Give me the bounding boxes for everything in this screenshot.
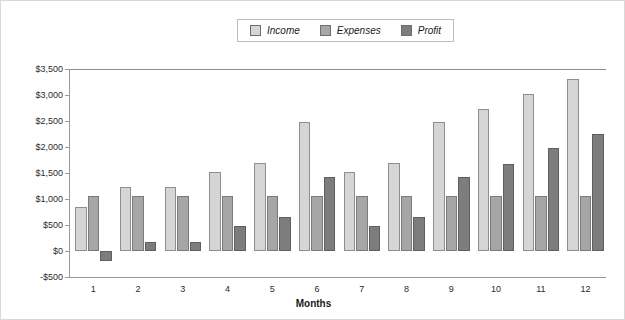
x-axis-tick-label: 5 [270,284,275,294]
bar-profit-month-6 [324,177,336,251]
bar-profit-month-7 [369,226,381,251]
bar-income-month-10 [478,109,490,251]
legend-swatch-expenses [320,25,331,36]
bar-profit-month-3 [190,242,202,251]
bar-expenses-month-8 [401,196,413,251]
bar-expenses-month-1 [88,196,100,251]
zero-baseline [69,69,606,70]
x-axis-tick-label: 10 [491,284,501,294]
x-axis-tick-label: 1 [91,284,96,294]
x-axis-tick-label: 7 [359,284,364,294]
bar-income-month-5 [254,163,266,251]
x-axis-tick-label: 8 [404,284,409,294]
bar-expenses-month-9 [446,196,458,251]
bar-expenses-month-5 [267,196,279,251]
y-axis-labels: $3,500$3,000$2,500$2,000$1,500$1,000$500… [1,69,63,277]
y-axis-tick [65,95,69,96]
x-axis-tick-label: 6 [315,284,320,294]
bar-profit-month-10 [503,164,515,251]
x-axis-tick-label: 12 [581,284,591,294]
x-axis-tick-label: 4 [225,284,230,294]
bar-expenses-month-10 [490,196,502,251]
bar-income-month-1 [75,207,87,251]
bar-income-month-2 [120,187,132,251]
x-axis-tick-label: 11 [536,284,545,294]
x-axis-tick-label: 2 [136,284,141,294]
bar-income-month-12 [567,79,579,251]
y-axis-tick [65,225,69,226]
y-axis-tick-label: $0 [53,246,63,256]
y-axis-tick-label: $2,500 [35,116,63,126]
y-axis-tick [65,147,69,148]
plot-area [69,69,606,277]
bar-profit-month-11 [548,148,560,251]
bar-expenses-month-7 [356,196,368,251]
y-axis-tick-label: $1,500 [35,168,63,178]
y-axis-tick [65,173,69,174]
y-axis-tick [65,199,69,200]
legend-label-income: Income [267,25,300,36]
bar-income-month-4 [209,172,221,251]
bar-expenses-month-11 [535,196,547,251]
bar-expenses-month-6 [311,196,323,251]
bar-income-month-6 [299,122,311,251]
y-axis-tick [65,121,69,122]
bar-expenses-month-3 [177,196,189,251]
chart-legend: Income Expenses Profit [237,19,454,42]
y-axis-tick-label: $500 [43,220,63,230]
y-axis-tick [65,251,69,252]
bar-profit-month-2 [145,242,157,251]
bar-profit-month-9 [458,177,470,251]
bar-expenses-month-12 [580,196,592,251]
y-axis-tick-label: $3,500 [35,64,63,74]
x-axis-line [69,277,606,278]
y-axis-tick-label: $2,000 [35,142,63,152]
bar-expenses-month-2 [132,196,144,251]
bar-expenses-month-4 [222,196,234,251]
y-axis-line [69,69,70,277]
y-axis-tick-label: -$500 [40,272,63,282]
bar-income-month-9 [433,122,445,251]
bar-income-month-8 [388,163,400,251]
legend-swatch-profit [401,25,412,36]
bar-income-month-3 [165,187,177,251]
chart-frame: Income Expenses Profit $3,500$3,000$2,50… [0,0,625,320]
bar-profit-month-8 [413,217,425,251]
x-axis-title: Months [1,298,625,309]
bar-income-month-11 [523,94,535,251]
x-axis-tick-label: 9 [449,284,454,294]
legend-item-expenses: Expenses [320,25,381,36]
legend-label-expenses: Expenses [337,25,381,36]
bar-profit-month-5 [279,217,291,251]
bar-profit-month-4 [234,226,246,251]
y-axis-tick [65,69,69,70]
x-axis-tick-label: 3 [180,284,185,294]
legend-item-income: Income [250,25,300,36]
legend-swatch-income [250,25,261,36]
y-axis-tick-label: $1,000 [35,194,63,204]
legend-label-profit: Profit [418,25,441,36]
bar-profit-month-12 [592,134,604,251]
y-axis-tick-label: $3,000 [35,90,63,100]
bar-income-month-7 [344,172,356,251]
legend-item-profit: Profit [401,25,441,36]
bar-profit-month-1 [100,251,112,261]
